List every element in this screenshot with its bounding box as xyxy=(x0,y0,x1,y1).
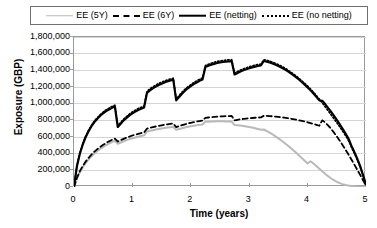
y-tick-label: 1,800,000 xyxy=(2,32,70,41)
x-tick-label: 5 xyxy=(350,195,377,204)
series-line-ee-netting xyxy=(74,61,366,187)
legend-label-ee-6y: EE (6Y) xyxy=(143,11,175,20)
plot-svg xyxy=(74,37,366,187)
legend-item-ee-6y: EE (6Y) xyxy=(113,11,175,20)
data-series-layer xyxy=(74,60,366,187)
legend-item-ee-no-netting: EE (no netting) xyxy=(262,11,352,20)
y-tick-label: 1,600,000 xyxy=(2,48,70,57)
x-tick-label: 2 xyxy=(175,195,205,204)
x-axis-title: Time (years) xyxy=(73,209,365,219)
y-tick-label: 400,000 xyxy=(2,148,70,157)
legend-swatch-solid-black-icon xyxy=(179,12,206,19)
y-axis-title: Exposure (GBP) xyxy=(14,42,24,152)
y-tick-label: 200,000 xyxy=(2,165,70,174)
x-tick-label: 1 xyxy=(116,195,146,204)
x-tick-label: 4 xyxy=(292,195,322,204)
chart-legend: EE (5Y) EE (6Y) EE (netting) EE (no nett… xyxy=(30,6,368,25)
chart-figure: EE (5Y) EE (6Y) EE (netting) EE (no nett… xyxy=(0,0,377,228)
gridlines xyxy=(74,37,366,187)
legend-label-ee-netting: EE (netting) xyxy=(209,11,257,20)
legend-label-ee-5y: EE (5Y) xyxy=(76,11,108,20)
x-tick-label: 3 xyxy=(233,195,263,204)
legend-label-ee-no-netting: EE (no netting) xyxy=(292,11,352,20)
y-tickmark xyxy=(69,186,73,187)
x-tick-label: 0 xyxy=(58,195,88,204)
legend-item-ee-netting: EE (netting) xyxy=(179,11,257,20)
plot-area xyxy=(73,36,365,186)
legend-swatch-dotted-icon xyxy=(262,12,289,19)
x-axis-tick-labels: 012345 xyxy=(0,189,377,203)
legend-swatch-dashed-icon xyxy=(113,12,140,19)
